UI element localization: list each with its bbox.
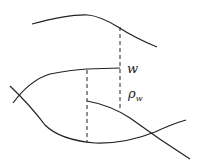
top-curve xyxy=(32,15,157,47)
label-w: w xyxy=(127,61,138,76)
label-rho: ρw xyxy=(127,86,143,103)
label-rho-subscript: w xyxy=(136,94,143,103)
middle-curve xyxy=(13,68,120,103)
lower-curve xyxy=(87,101,190,159)
crossing-curve xyxy=(10,86,186,143)
label-rho-main: ρ xyxy=(127,86,136,101)
diagram-canvas: w ρw xyxy=(0,0,200,162)
